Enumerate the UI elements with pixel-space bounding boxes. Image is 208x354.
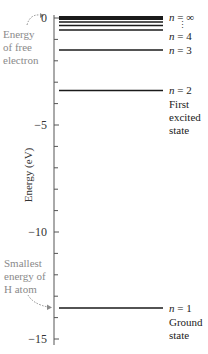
- label-n-1: n = 1: [169, 302, 192, 314]
- label-value: = 4: [175, 30, 192, 42]
- caption-line: state: [169, 124, 201, 137]
- caption-line: excited: [169, 111, 201, 124]
- annotation-line: Smallest: [4, 257, 46, 270]
- ellipsis-dots: ⋮: [178, 21, 187, 30]
- annotation-free-electron: Energy of free electron: [3, 28, 38, 67]
- label-value: = 2: [175, 84, 192, 96]
- label-value: = 1: [175, 302, 192, 314]
- caption-line: state: [169, 329, 203, 342]
- annotation-line: of free: [3, 41, 38, 54]
- annotation-line: H atom: [4, 283, 46, 296]
- annotation-line: Energy: [3, 28, 38, 41]
- label-value: = 3: [175, 44, 192, 56]
- label-n-4: n = 4: [169, 30, 192, 42]
- caption-line: First: [169, 98, 201, 111]
- arrow-smallest-energy: [28, 295, 48, 307]
- arrow-head-smallest-energy: [47, 305, 52, 311]
- tick-label-0: 0: [17, 12, 47, 24]
- tick-label-minus-5: −5: [17, 119, 47, 131]
- label-n-2: n = 2: [169, 84, 192, 96]
- energy-levels: [59, 16, 163, 308]
- annotation-line: energy of: [4, 270, 46, 283]
- level-continuum: [59, 16, 163, 20]
- axis-ticks: [54, 18, 59, 339]
- y-axis-label: Energy (eV): [22, 145, 34, 205]
- energy-level-diagram: 0 −5 −10 −15 Energy (eV) Energy of free …: [0, 0, 208, 354]
- annotation-line: electron: [3, 54, 38, 67]
- annotation-smallest-energy: Smallest energy of H atom: [4, 257, 46, 296]
- label-n-3: n = 3: [169, 44, 192, 56]
- caption-ground-state: Ground state: [169, 316, 203, 342]
- caption-line: Ground: [169, 316, 203, 329]
- caption-first-excited-state: First excited state: [169, 98, 201, 137]
- tick-label-minus-10: −10: [17, 226, 47, 238]
- tick-label-minus-15: −15: [17, 333, 47, 345]
